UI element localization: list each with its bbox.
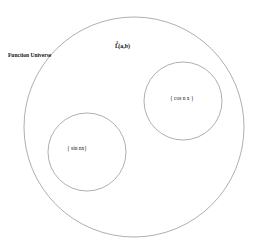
l2-space-interval: (a,b): [118, 43, 130, 49]
l2-space-label: L2(a,b): [115, 41, 130, 49]
sin-set-circle: [48, 113, 126, 191]
l2-space-exponent: 2: [116, 40, 118, 45]
cos-set-label: { cos n x }: [170, 95, 194, 101]
diagram-canvas: [0, 0, 255, 248]
function-universe-label: Function Universe: [8, 52, 51, 58]
cos-set-circle: [144, 62, 222, 140]
sin-set-label: { sin nx}: [67, 145, 87, 151]
